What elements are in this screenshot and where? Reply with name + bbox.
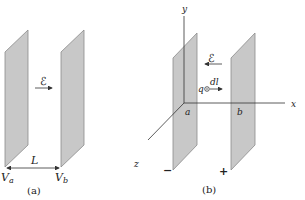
negative-sign: − <box>163 164 172 177</box>
potential-vb: Vb <box>55 171 68 185</box>
positive-plate <box>231 33 255 170</box>
displacement-label: dl <box>210 77 219 87</box>
negative-plate <box>173 33 197 170</box>
potential-va: Va <box>1 171 14 185</box>
left-plate <box>5 30 28 167</box>
field-label-a: ℰ <box>40 75 47 88</box>
caption-a: (a) <box>27 185 41 196</box>
caption-b: (b) <box>202 184 216 195</box>
y-axis-label: y <box>181 4 188 14</box>
panel-a: ℰ L Va Vb (a) <box>1 30 84 196</box>
point-a-label: a <box>185 107 190 117</box>
x-axis-label: x <box>291 99 296 109</box>
distance-label: L <box>30 154 38 167</box>
point-b-label: b <box>237 107 243 117</box>
z-axis-label: z <box>133 159 139 169</box>
panel-b: y x z ℰ q dl a b − + (b) <box>133 4 296 195</box>
charge-label: q <box>198 84 204 94</box>
right-plate <box>61 30 84 167</box>
positive-sign: + <box>219 165 228 178</box>
parallel-plates-diagram: ℰ L Va Vb (a) y x z ℰ q dl a b − + (b) <box>0 0 305 200</box>
field-label-b: ℰ <box>208 52 215 65</box>
